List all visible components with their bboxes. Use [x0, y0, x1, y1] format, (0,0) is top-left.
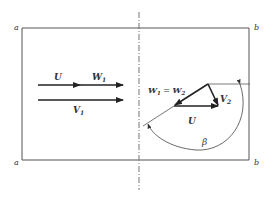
v2-label: V2 — [220, 94, 231, 105]
v2-vector — [208, 84, 218, 105]
inlet-vectors: U W1 V1 — [38, 72, 123, 116]
w1-label: W1 — [92, 72, 106, 83]
label-a-bottom: a — [14, 158, 19, 167]
blade-angle-line — [143, 106, 174, 126]
label-b-top: b — [254, 23, 259, 32]
label-b-bottom: b — [254, 158, 259, 167]
beta-label: β — [201, 137, 207, 147]
u-label-outlet: U — [188, 116, 197, 126]
velocity-triangle-diagram: a a b b U W1 V1 W1 = W2 V2 U β — [0, 0, 273, 201]
u-label-inlet: U — [54, 72, 63, 82]
v1-label: V1 — [73, 105, 84, 116]
outlet-triangle: W1 = W2 V2 U β — [143, 84, 250, 150]
label-a-top: a — [14, 23, 19, 32]
frame — [22, 28, 249, 160]
w-equality-label: W1 = W2 — [148, 85, 186, 96]
